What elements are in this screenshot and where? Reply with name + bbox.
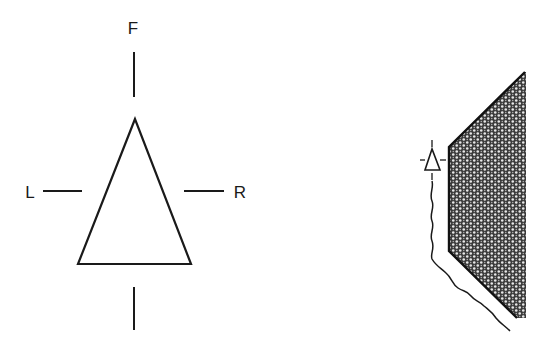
- right-label: R: [234, 183, 246, 202]
- left-label: L: [25, 183, 34, 202]
- figure-canvas: F L R: [0, 0, 554, 350]
- wall-scene-diagram: [420, 72, 526, 331]
- small-sensor-icon: [420, 140, 446, 180]
- orientation-diagram: F L R: [25, 19, 246, 330]
- sensor-triangle-icon: [78, 119, 191, 264]
- front-label: F: [128, 19, 138, 38]
